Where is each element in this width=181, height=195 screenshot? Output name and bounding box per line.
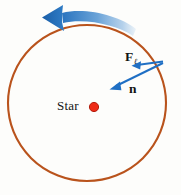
diagram-canvas	[0, 0, 181, 195]
star-body-circle	[8, 25, 166, 181]
star-label: Star	[57, 99, 79, 112]
force-subscript: ℓ	[134, 57, 137, 66]
normal-vector-label: n	[129, 82, 137, 96]
star-rotation-force-diagram: Star Fℓ n	[0, 0, 181, 195]
force-vector-label: Fℓ	[125, 50, 137, 66]
star-center-dot	[89, 102, 98, 111]
force-symbol: F	[125, 49, 133, 64]
